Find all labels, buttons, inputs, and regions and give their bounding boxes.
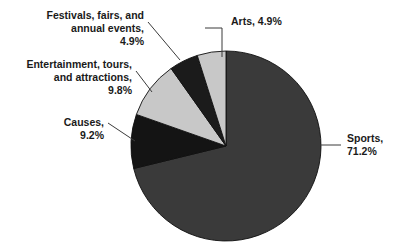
label-festivals-line2: annual events,: [71, 22, 144, 34]
label-sports-line2: 71.2%: [347, 145, 377, 157]
label-festivals-line1: Festivals, fairs, and: [47, 9, 144, 21]
label-festivals-line3: 4.9%: [120, 35, 145, 47]
pie-chart-figure: Arts, 4.9% Festivals, fairs, and annual …: [0, 0, 405, 250]
label-entertainment-line3: 9.8%: [108, 84, 133, 96]
label-arts: Arts, 4.9%: [231, 15, 282, 27]
label-causes-line2: 9.2%: [80, 129, 105, 141]
label-entertainment-line2: and attractions,: [54, 71, 132, 83]
label-entertainment-line1: Entertainment, tours,: [26, 58, 132, 70]
label-sports-line1: Sports,: [347, 132, 383, 144]
pie-chart-svg: Arts, 4.9% Festivals, fairs, and annual …: [0, 0, 405, 250]
label-causes-line1: Causes,: [64, 116, 104, 128]
pie-slices: [131, 51, 321, 241]
